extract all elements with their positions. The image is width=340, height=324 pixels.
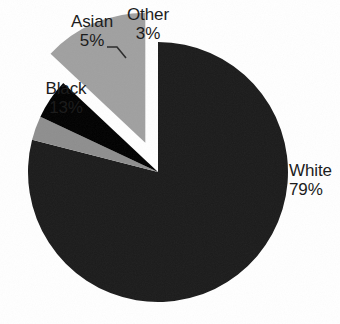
pie-label-white-name: White — [289, 161, 332, 180]
pie-label-white: White 79% — [289, 161, 332, 200]
pie-label-asian: Asian 5% — [61, 12, 123, 51]
pie-label-white-value: 79% — [289, 180, 332, 199]
pie-label-other: Other 3% — [119, 5, 177, 44]
pie-label-other-value: 3% — [119, 24, 177, 43]
pie-label-asian-name: Asian — [61, 12, 123, 31]
pie-label-black-name: Black — [29, 79, 103, 98]
pie-label-black-value: 13% — [29, 98, 103, 117]
pie-label-asian-value: 5% — [61, 31, 123, 50]
pie-label-black: Black 13% — [29, 79, 103, 118]
pie-chart: White 79% Black 13% Asian 5% Other 3% — [0, 0, 340, 324]
pie-label-other-name: Other — [119, 5, 177, 24]
